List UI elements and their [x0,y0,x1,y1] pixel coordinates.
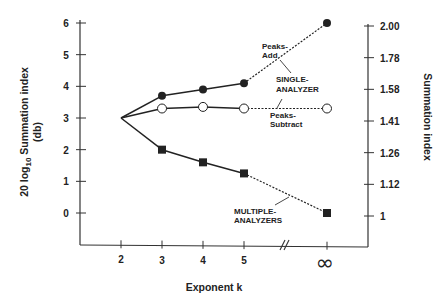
left-tick-label: 2 [63,145,69,156]
bottom-axis [80,245,368,247]
x-tick-label: 4 [200,255,206,266]
series-filled-square [121,118,331,217]
solid-segment [121,118,162,150]
left-tick-label: 1 [63,176,69,187]
annot-peaks-add-2: Add [262,51,278,60]
series-filled-circle [121,19,331,118]
ylabel-left-unit: (db) [31,122,43,142]
series-open-circle [121,102,332,118]
right-tick-label: 1.12 [380,179,400,190]
open-circle-marker [158,104,167,113]
annotations: Peaks- Add SINGLE- ANALYZER Peaks- Subtr… [234,42,319,225]
left-tick-label: 4 [63,81,69,92]
solid-segment [121,96,162,118]
left-axis-ticks: 0123456 [63,18,86,219]
x-tick-infinity: ∞ [316,250,334,275]
right-tick-label: 1.41 [380,116,400,127]
left-tick-label: 3 [63,113,69,124]
annot-peaks-sub-2: Subtract [270,120,303,129]
right-tick-label: 1.58 [380,84,400,95]
axis-break-icon [280,240,289,250]
solid-segment [162,150,203,163]
annot-peaks-add-1: Peaks- [262,42,288,51]
x-tick-label: 2 [118,254,124,265]
filled-square-marker [199,158,207,166]
right-tick-label: 1.26 [380,148,400,159]
filled-circle-marker [199,86,207,94]
left-axis-title: 20 log10 Summation index (db) [18,67,43,197]
ylabel-left-post: Summation index [18,67,30,158]
right-tick-label: 1 [380,211,386,222]
filled-circle-marker [323,19,331,27]
annot-peaks-sub-1: Peaks- [270,111,296,120]
annot-multi-1: MULTIPLE- [234,207,276,216]
open-circle-marker [323,104,332,113]
solid-segment [121,109,162,119]
right-axis-title: Summation index [422,73,434,161]
right-tick-label: 1.78 [380,53,400,64]
solid-segment [162,90,203,96]
solid-segment [203,83,244,89]
annot-single-1: SINGLE- [276,75,309,84]
summation-index-chart: 0123456 11.121.261.411.581.782.00 2345 ∞… [0,0,448,301]
filled-square-marker [323,209,331,217]
left-tick-label: 0 [63,208,69,219]
right-axis-ticks: 11.121.261.411.581.782.00 [364,21,400,222]
filled-square-marker [240,169,248,177]
left-tick-label: 6 [63,18,69,29]
x-axis-title: Exponent k [186,281,243,293]
annot-single-2: ANALYZER [276,85,319,94]
solid-segment [203,107,244,109]
x-axis-ticks: 2345 [118,240,327,266]
filled-square-marker [158,146,166,154]
left-tick-label: 5 [63,50,69,61]
right-tick-label: 2.00 [380,21,400,32]
x-tick-label: 3 [159,255,165,266]
filled-circle-marker [240,79,248,87]
solid-segment [203,162,244,173]
x-tick-label: 5 [241,255,247,266]
solid-segment [162,107,203,109]
annot-multi-2: ANALYZERS [234,216,283,225]
filled-circle-marker [158,92,166,100]
open-circle-marker [240,104,249,113]
ylabel-left-pre: 20 log [18,167,30,197]
open-circle-marker [199,102,208,111]
series-layer [121,19,332,217]
